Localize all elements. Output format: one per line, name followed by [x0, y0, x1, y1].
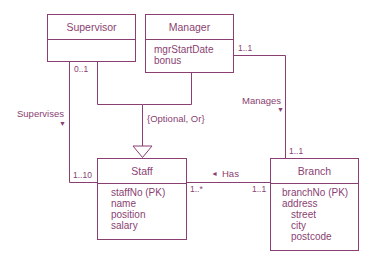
- attribute: position: [111, 209, 165, 220]
- has-mult-staff: 1..*: [190, 184, 203, 194]
- supervises-mult-supervisor: 0..1: [74, 64, 88, 74]
- attribute: address: [282, 198, 348, 209]
- has-label: Has: [222, 168, 239, 179]
- class-branch-name: Branch: [271, 159, 358, 184]
- manages-label: Manages: [242, 95, 281, 106]
- class-manager-attributes: mgrStartDate bonus: [154, 44, 213, 66]
- attribute: name: [111, 198, 165, 209]
- attribute: salary: [111, 220, 165, 231]
- class-staff-attributes: staffNo (PK) name position salary: [111, 187, 165, 231]
- attribute: staffNo (PK): [111, 187, 165, 198]
- manages-mult-manager: 1..1: [238, 43, 252, 53]
- class-staff-name: Staff: [98, 159, 186, 184]
- attribute: street: [282, 209, 348, 220]
- generalization-manager-line: [143, 72, 192, 105]
- class-supervisor: Supervisor: [47, 14, 136, 62]
- supervises-arrow-icon: ▼: [59, 120, 66, 127]
- has-arrow-icon: ◄: [211, 170, 218, 177]
- generalization-triangle-icon: [133, 146, 152, 158]
- attribute: mgrStartDate: [154, 44, 213, 55]
- has-mult-branch: 1..1: [252, 184, 266, 194]
- class-manager: Manager mgrStartDate bonus: [145, 14, 234, 73]
- class-staff: Staff staffNo (PK) name position salary: [97, 158, 187, 240]
- attribute: branchNo (PK): [282, 187, 348, 198]
- class-supervisor-name: Supervisor: [48, 15, 135, 40]
- attribute: postcode: [282, 231, 348, 242]
- generalization-supervisor-line: [98, 61, 143, 105]
- supervises-label: Supervises: [17, 108, 64, 119]
- attribute: bonus: [154, 55, 213, 66]
- manages-arrow-icon: ▼: [277, 106, 284, 113]
- supervises-mult-staff: 1..10: [73, 170, 92, 180]
- supervises-line: [70, 61, 98, 183]
- manages-mult-branch: 1..1: [289, 146, 303, 156]
- generalization-constraint: {Optional, Or}: [147, 113, 205, 124]
- class-branch: Branch branchNo (PK) address street city…: [270, 158, 359, 251]
- class-manager-name: Manager: [146, 15, 233, 40]
- class-branch-attributes: branchNo (PK) address street city postco…: [282, 187, 348, 242]
- attribute: city: [282, 220, 348, 231]
